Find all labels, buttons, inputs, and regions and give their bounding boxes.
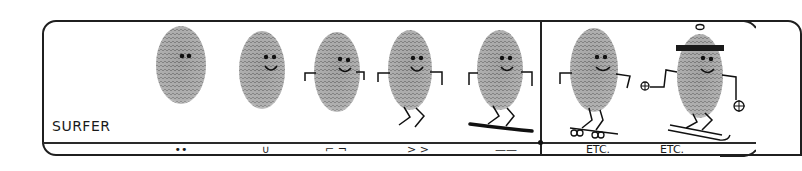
legend-arms: ⌐ ¬ (325, 143, 347, 156)
legend-smile: ∪ (262, 143, 270, 156)
legend-legs: > > (407, 143, 429, 156)
fingerprint-legs (378, 30, 442, 127)
legend-etc-skier: ETC. (660, 143, 684, 156)
legend-dots: •• (175, 143, 188, 156)
fingerprint-surfer (469, 30, 532, 131)
fingerprint-smile (239, 31, 285, 109)
fingerprint-arms (305, 32, 364, 112)
illustration-title: SURFER (52, 118, 111, 134)
fingerprint-skateboarder (560, 28, 630, 138)
fingerprint-skier (641, 25, 745, 141)
hat-pompom (696, 25, 704, 30)
legend-board: —— (495, 143, 517, 156)
hat-brim (676, 45, 724, 51)
fingerprint-dots (156, 26, 206, 104)
legend-etc-skateboard: ETC. (586, 143, 610, 156)
